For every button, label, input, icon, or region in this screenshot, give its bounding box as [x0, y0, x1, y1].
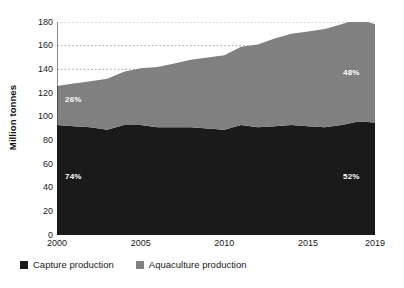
y-axis-tick-label: 20: [29, 207, 53, 216]
legend-item-label: Capture production: [33, 260, 114, 270]
y-axis-tick-label: 120: [29, 89, 53, 98]
legend-item[interactable]: Aquaculture production: [136, 260, 247, 270]
stacked-area-chart: Million tonnes 020406080100120140160180 …: [0, 0, 404, 288]
area-series-aquaculture-production: [57, 22, 375, 130]
x-axis-tick-labels: 20002005201020152019: [0, 238, 404, 254]
y-axis-title: Million tonnes: [2, 0, 24, 235]
x-axis-tick-label: 2010: [204, 238, 244, 248]
area-series-capture-production: [57, 121, 375, 235]
y-axis-tick-label: 180: [29, 18, 53, 27]
x-axis-tick-label: 2019: [355, 238, 395, 248]
percentage-annotation: 26%: [65, 95, 82, 104]
y-axis-title-text: Million tonnes: [8, 85, 19, 150]
x-axis-tick-label: 2005: [121, 238, 161, 248]
y-axis-tick-label: 160: [29, 41, 53, 50]
x-axis-tick-label: 2000: [37, 238, 77, 248]
y-axis-tick-label: 100: [29, 112, 53, 121]
legend-item[interactable]: Capture production: [20, 260, 114, 270]
legend-swatch-icon: [136, 261, 144, 269]
plot-svg: [57, 22, 375, 235]
chart-legend: Capture productionAquaculture production: [20, 260, 247, 270]
percentage-annotation: 52%: [343, 172, 360, 181]
percentage-annotation: 74%: [65, 172, 82, 181]
percentage-annotation: 48%: [343, 68, 360, 77]
x-axis-tick-label: 2015: [288, 238, 328, 248]
plot-area: [57, 22, 375, 235]
y-axis-tick-label: 60: [29, 160, 53, 169]
y-axis-tick-label: 80: [29, 136, 53, 145]
y-axis-tick-label: 140: [29, 65, 53, 74]
y-axis-tick-label: 40: [29, 183, 53, 192]
legend-item-label: Aquaculture production: [149, 260, 247, 270]
legend-swatch-icon: [20, 261, 28, 269]
